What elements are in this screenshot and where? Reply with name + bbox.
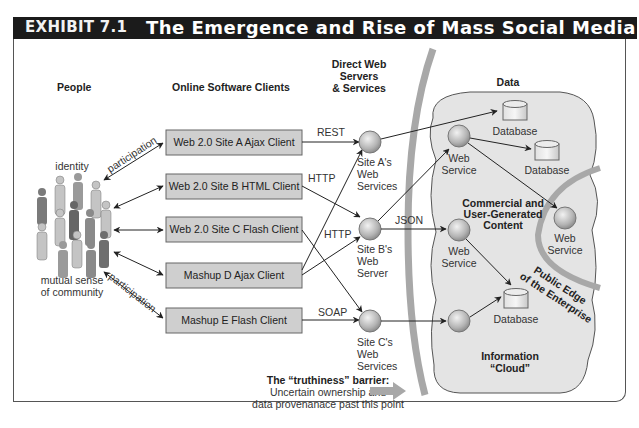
site-a-label-3: Services — [357, 180, 397, 192]
client-box-b[interactable]: Web 2.0 Site B HTML Client — [166, 174, 302, 199]
site-b-label-1: Site B's — [357, 243, 392, 255]
site-a-server-node[interactable] — [359, 131, 381, 153]
database-icon-2[interactable] — [535, 141, 559, 161]
community-label-2: of community — [41, 286, 104, 298]
site-b-server-node[interactable] — [359, 218, 381, 240]
site-c-label-3: Services — [357, 360, 397, 372]
site-a-label-1: Site A's — [357, 156, 392, 168]
info-cloud-label-2: “Cloud” — [490, 362, 530, 374]
ws1-label-1: Web — [448, 152, 470, 164]
db3-label: Database — [494, 313, 539, 325]
ws4-label-2: Service — [547, 244, 582, 256]
database-icon-3[interactable] — [504, 289, 528, 309]
db2-label: Database — [525, 164, 570, 176]
participation-label-top: participation — [105, 134, 159, 175]
servers-heading-1: Direct Web — [332, 58, 387, 70]
public-web-service-node[interactable] — [554, 207, 576, 229]
people-heading: People — [57, 81, 92, 93]
web-service-node-3[interactable] — [448, 310, 470, 332]
svg-text:Mashup D Ajax Client: Mashup D Ajax Client — [184, 269, 284, 281]
diagram-canvas: People Online Software Clients Direct We… — [0, 0, 639, 428]
ws2-label-2: Service — [441, 257, 476, 269]
servers-heading-2: Servers — [340, 70, 379, 82]
db1-label: Database — [493, 125, 538, 137]
svg-text:Mashup E Flash Client: Mashup E Flash Client — [181, 314, 287, 326]
info-cloud-label-1: Information — [481, 350, 539, 362]
arrow-d-to-siteA — [302, 150, 362, 270]
participation-label-bottom: participation — [107, 270, 159, 314]
people-crowd-icon — [37, 173, 111, 278]
http-label-1: HTTP — [308, 172, 335, 184]
site-b-label-2: Web — [357, 255, 379, 267]
servers-heading-3: & Services — [332, 82, 386, 94]
site-b-label-3: Server — [357, 267, 388, 279]
rest-label: REST — [317, 126, 346, 138]
svg-text:Web 2.0 Site A Ajax Client: Web 2.0 Site A Ajax Client — [173, 136, 294, 148]
client-box-a[interactable]: Web 2.0 Site A Ajax Client — [166, 130, 302, 155]
site-c-label-2: Web — [357, 348, 379, 360]
ws2-label-1: Web — [448, 245, 470, 257]
svg-text:Web 2.0 Site B HTML Client: Web 2.0 Site B HTML Client — [169, 180, 300, 192]
site-a-label-2: Web — [357, 168, 379, 180]
web-service-node-2[interactable] — [448, 219, 470, 241]
svg-text:Web 2.0 Site C Flash Client: Web 2.0 Site C Flash Client — [170, 223, 299, 235]
client-box-d[interactable]: Mashup D Ajax Client — [166, 263, 302, 288]
commercial-label-3: Content — [483, 219, 523, 231]
community-label-1: mutual sense — [41, 274, 104, 286]
data-heading: Data — [497, 76, 520, 88]
site-c-server-node[interactable] — [359, 310, 381, 332]
barrier-title: The “truthiness” barrier: — [267, 374, 390, 386]
soap-label: SOAP — [318, 306, 347, 318]
client-box-e[interactable]: Mashup E Flash Client — [166, 308, 302, 333]
arrow-b — [114, 186, 163, 208]
arrow-c-to-siteC — [302, 230, 362, 312]
http-label-2: HTTP — [324, 228, 351, 240]
barrier-line-1: Uncertain ownership and — [270, 386, 386, 398]
database-icon-1[interactable] — [503, 101, 527, 121]
client-box-c[interactable]: Web 2.0 Site C Flash Client — [166, 217, 302, 242]
ws1-label-2: Service — [441, 164, 476, 176]
barrier-line-2: data provenanace past this point — [252, 398, 404, 410]
clients-heading: Online Software Clients — [172, 81, 290, 93]
identity-label: identity — [55, 160, 89, 172]
web-service-node-1[interactable] — [448, 125, 470, 147]
arrow-d — [114, 252, 163, 275]
json-label: JSON — [395, 214, 423, 226]
site-c-label-1: Site C's — [357, 336, 393, 348]
ws4-label-1: Web — [554, 232, 576, 244]
